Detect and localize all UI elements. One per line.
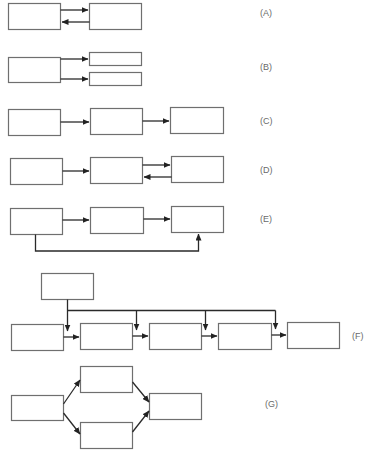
panel-label-g: (G): [265, 399, 278, 409]
block-f3: [150, 324, 202, 350]
block-c2: [91, 109, 143, 135]
block-f-top: [42, 274, 94, 300]
panel-d: (D): [11, 157, 273, 185]
panel-label-e: (E): [260, 214, 272, 224]
panel-label-f: (F): [352, 331, 364, 341]
arrow-g1-to-g3: [64, 413, 81, 434]
block-d1: [11, 159, 63, 185]
block-g4: [150, 394, 202, 420]
block-b3: [90, 73, 142, 86]
block-d2: [91, 158, 143, 184]
block-e1: [11, 209, 63, 235]
block-f2: [81, 324, 133, 350]
block-c1: [9, 110, 61, 136]
panel-c: (C): [9, 108, 273, 136]
panel-f: (F): [12, 274, 364, 351]
bypass-e1-to-e3: [36, 234, 199, 251]
panel-g: (G): [12, 367, 279, 449]
panel-label-b: (B): [260, 62, 272, 72]
block-a1: [9, 4, 61, 30]
panel-b: (B): [9, 53, 273, 86]
arrow-g3-to-g4: [133, 411, 150, 432]
panel-label-c: (C): [260, 116, 273, 126]
block-e2: [91, 208, 144, 234]
panel-label-a: (A): [260, 8, 272, 18]
panel-label-d: (D): [260, 165, 273, 175]
block-g1: [12, 396, 64, 421]
block-f1: [12, 325, 64, 351]
block-e3: [172, 207, 224, 233]
process-diagrams: (A) (B) (C) (D) (E): [0, 0, 372, 455]
block-b2: [90, 53, 142, 66]
arrow-g2-to-g4: [133, 382, 150, 402]
block-b1: [9, 58, 61, 83]
panel-e: (E): [11, 207, 273, 252]
block-d3: [172, 157, 224, 183]
panel-a: (A): [9, 4, 273, 30]
block-g3: [81, 423, 133, 449]
arrow-g1-to-g2: [64, 380, 81, 404]
block-f5: [288, 323, 340, 349]
block-a2: [90, 4, 142, 30]
block-g2: [81, 367, 133, 393]
block-c3: [171, 108, 224, 134]
block-f4: [219, 324, 272, 350]
